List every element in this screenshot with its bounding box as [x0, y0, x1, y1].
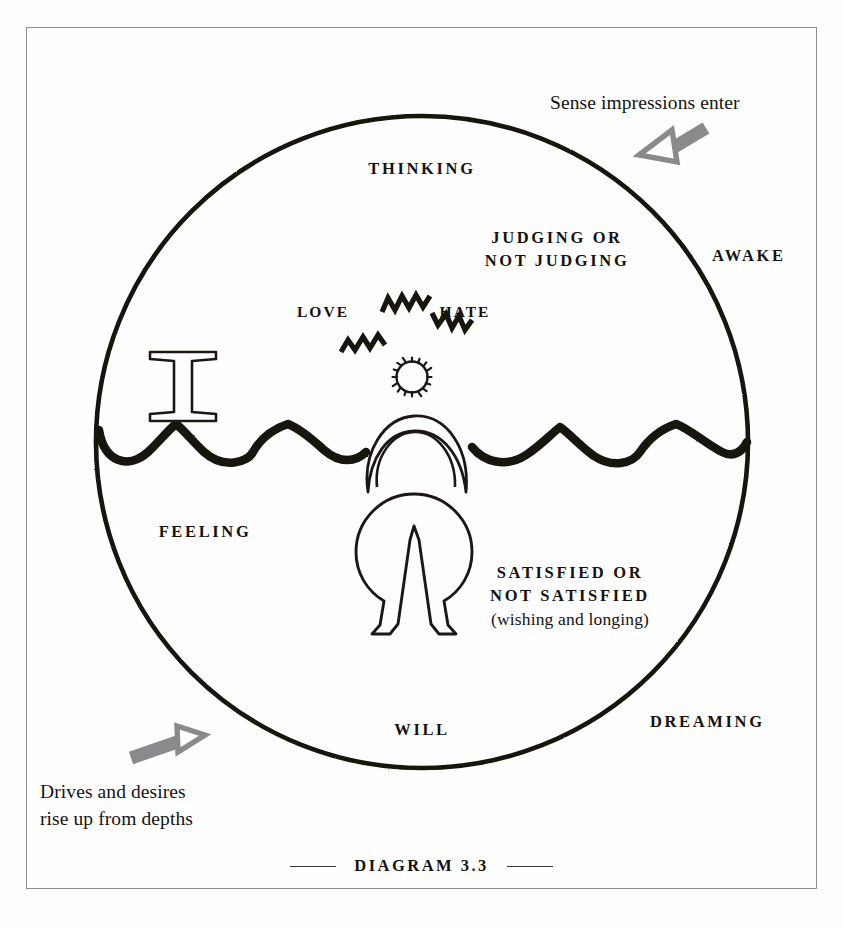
- sun-head-symbol: [393, 358, 432, 397]
- label-will: WILL: [332, 719, 512, 740]
- label-dreaming: DREAMING: [650, 711, 820, 732]
- crescent-arms-symbol: [367, 416, 466, 492]
- label-feeling: FEELING: [105, 521, 305, 542]
- label-love: LOVE: [268, 302, 378, 322]
- label-judging-line1: JUDGING OR: [442, 227, 672, 248]
- label-awake: AWAKE: [712, 245, 822, 266]
- caption-rule-left: [290, 866, 336, 867]
- annotation-drives-line1: Drives and desires: [40, 779, 360, 804]
- label-hate: HATE: [410, 302, 520, 322]
- label-judging-line2: NOT JUDGING: [442, 250, 672, 271]
- caption-text: DIAGRAM 3.3: [354, 856, 488, 876]
- label-satisfied-line2: NOT SATISFIED: [455, 585, 685, 606]
- label-satisfied-line1: SATISFIED OR: [455, 562, 685, 583]
- diagram-page: Sense impressions enter THINKING JUDGING…: [0, 0, 843, 928]
- annotation-sense-impressions: Sense impressions enter: [550, 90, 820, 115]
- annotation-drives-line2: rise up from depths: [40, 806, 360, 831]
- label-thinking: THINKING: [322, 158, 522, 179]
- drives-desires-arrow: [131, 726, 205, 758]
- circle-body-symbol: [352, 494, 472, 641]
- label-satisfied-line3: (wishing and longing): [455, 608, 685, 631]
- threshold-wave-left: [99, 424, 366, 463]
- gemini-symbol: [150, 352, 216, 421]
- figure-caption: DIAGRAM 3.3: [0, 856, 843, 876]
- threshold-wave-right: [472, 424, 747, 463]
- sense-impressions-arrow: [639, 128, 706, 162]
- caption-rule-right: [507, 866, 553, 867]
